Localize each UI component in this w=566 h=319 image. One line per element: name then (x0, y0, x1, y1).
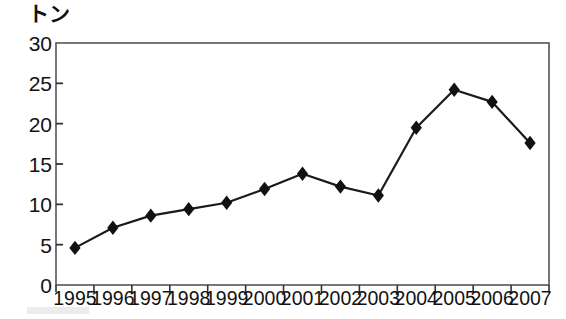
x-axis-tick-label: 2006 (470, 289, 513, 309)
data-point-marker (107, 221, 118, 235)
x-axis-tick-label: 2007 (508, 289, 551, 309)
x-axis-tick-label: 2001 (281, 289, 324, 309)
data-point-marker (69, 241, 80, 255)
x-axis-tick-label: 2005 (432, 289, 475, 309)
data-point-marker (145, 208, 156, 222)
x-axis-tick-label: 1995 (53, 289, 96, 309)
x-axis-tick-label: 1999 (205, 289, 248, 309)
footer-artifact (27, 307, 89, 314)
data-point-marker (259, 182, 270, 196)
data-point-marker (335, 179, 346, 193)
x-axis-tick-label: 1996 (91, 289, 134, 309)
x-axis-tick-label: 2004 (395, 289, 438, 309)
data-point-marker (297, 166, 308, 180)
data-point-marker (221, 196, 232, 210)
x-axis-tick-label: 2000 (243, 289, 286, 309)
plot-area (0, 0, 566, 319)
line-chart: トン 051015202530 199519961997199819992000… (0, 0, 566, 319)
plot-frame (56, 43, 549, 285)
plot-frame-rect (56, 43, 549, 285)
x-axis-tick-label: 1997 (129, 289, 172, 309)
data-point-marker (183, 202, 194, 216)
x-axis-tick-label: 1998 (167, 289, 210, 309)
data-point-markers (69, 83, 535, 256)
x-axis-tick-label: 2003 (357, 289, 400, 309)
y-axis-ticks (56, 83, 63, 244)
x-axis-tick-label: 2002 (319, 289, 362, 309)
